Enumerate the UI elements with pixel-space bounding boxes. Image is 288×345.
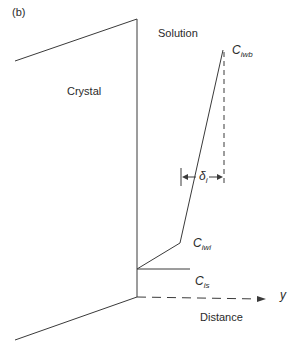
interface-concentration-symbol: C	[193, 236, 202, 250]
surface-concentration-subscript: is	[204, 281, 210, 290]
interface-concentration-label: Ciwi	[193, 237, 211, 252]
crystal-top-edge	[15, 19, 137, 61]
distance-axis-arrowhead	[257, 296, 266, 302]
panel-label: (b)	[12, 7, 25, 18]
surface-concentration-symbol: C	[195, 274, 204, 288]
crystal-region-label: Crystal	[67, 86, 101, 97]
bulk-concentration-subscript: iwb	[241, 50, 253, 59]
delta-right-arrowhead	[217, 174, 223, 180]
axis-label: Distance	[200, 312, 243, 323]
delta-subscript: i	[206, 176, 208, 185]
bulk-concentration-symbol: C	[232, 43, 241, 57]
crystal-bottom-edge	[15, 297, 137, 340]
delta-left-arrowhead	[182, 174, 188, 180]
solution-region-label: Solution	[158, 28, 198, 39]
interface-concentration-subscript: iwi	[202, 243, 211, 252]
distance-axis	[137, 297, 260, 299]
boundary-layer-thickness-label: δi	[199, 170, 207, 185]
bulk-concentration-label: Ciwb	[232, 44, 253, 59]
delta-symbol: δ	[199, 169, 206, 183]
axis-symbol: y	[280, 289, 286, 301]
surface-concentration-label: Cis	[195, 275, 209, 290]
